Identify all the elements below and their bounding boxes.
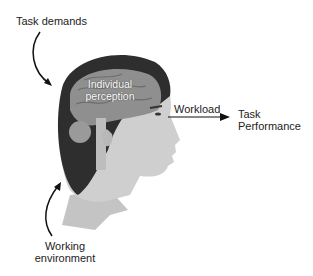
task-performance-line1: Task — [238, 108, 301, 120]
individual-perception-label: Individual perception — [80, 78, 140, 102]
working-environment-arrow — [46, 186, 58, 236]
working-environment-line1: Working — [34, 240, 96, 252]
individual-perception-line2: perception — [80, 90, 140, 102]
task-performance-line2: Performance — [238, 120, 301, 132]
cerebellum — [69, 121, 91, 143]
working-environment-label: Working environment — [34, 240, 96, 264]
task-demands-arrow — [33, 32, 50, 84]
working-environment-line2: environment — [34, 252, 96, 264]
diagram-graphics — [0, 0, 313, 276]
task-performance-label: Task Performance — [238, 108, 301, 132]
workload-label: Workload — [174, 103, 220, 115]
task-demands-label: Task demands — [16, 15, 87, 27]
individual-perception-line1: Individual — [80, 78, 140, 90]
